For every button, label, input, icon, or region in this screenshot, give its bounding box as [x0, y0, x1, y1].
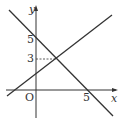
- y-tick-5-label: 5: [27, 33, 34, 46]
- x-axis-label: x: [111, 92, 118, 105]
- y-tick-3-label: 3: [27, 52, 34, 65]
- y-axis-label: y: [28, 3, 36, 16]
- coordinate-diagram: y x O 5 3 5: [0, 0, 123, 123]
- graph-canvas: y x O 5 3 5: [0, 0, 123, 123]
- x-tick-5-label: 5: [83, 91, 90, 104]
- origin-label: O: [25, 91, 34, 104]
- increasing-line: [7, 15, 112, 96]
